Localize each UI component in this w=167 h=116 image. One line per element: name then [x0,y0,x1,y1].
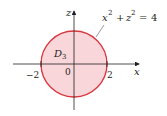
eq-rhs: 4 [151,12,157,23]
tick-label-right: 2 [107,70,113,80]
region-label: D [53,48,62,59]
tick-label-origin: 0 [65,67,71,77]
leader-line [96,25,104,37]
diagram: z x −2 0 2 D 3 x 2 + z 2 = 4 [0,0,167,116]
eq-equals: = [139,12,147,23]
x-axis-label: x [134,66,140,77]
region-subscript: 3 [62,53,66,61]
z-axis-label: z [65,7,72,18]
eq-plus: + [116,12,124,23]
eq-x-exp: 2 [108,9,112,17]
tick-label-left: −2 [26,70,39,80]
eq-z-exp: 2 [131,9,135,17]
